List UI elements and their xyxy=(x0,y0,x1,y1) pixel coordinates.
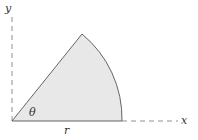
angle-label: θ xyxy=(29,106,36,119)
y-axis-label: y xyxy=(4,2,12,15)
radius-label: r xyxy=(64,124,70,137)
x-axis-label: x xyxy=(181,114,188,127)
sector-diagram: y x θ r xyxy=(0,0,198,140)
